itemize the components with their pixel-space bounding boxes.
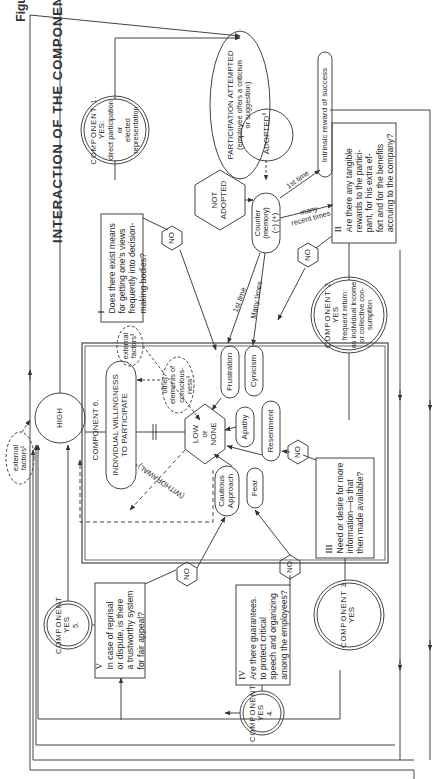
- other-elements-line: ness³: [186, 366, 194, 404]
- high-node: HIGH: [56, 408, 65, 428]
- return-loop-outer: [30, 15, 414, 779]
- question-3-line: Need or desire for more: [335, 463, 345, 554]
- question-3-box: III Need or desire for more information—…: [324, 463, 366, 554]
- question-1-num: I: [96, 223, 107, 314]
- external-factors-line: factors³: [130, 333, 138, 359]
- return-loop-4: [38, 445, 340, 719]
- not-adopted-line: ADOPTED: [220, 181, 229, 220]
- component-2: COMPONENT 2 YES frequent return: as indi…: [324, 282, 374, 349]
- question-3-line: information—is that: [345, 463, 355, 554]
- component-1: COMPONENT 1. YES: direct participation o…: [90, 96, 140, 165]
- counter-node: Counter (memory) (−) (+): [254, 207, 279, 239]
- component-3: COMPONENT 3 YES: [340, 582, 357, 648]
- component-1-line: representation: [132, 96, 140, 165]
- question-2-line: rewards to the partici-: [354, 134, 364, 232]
- no-label-q4: NO: [286, 561, 295, 573]
- individual-willingness-node: INDIVIDUAL WILLINGNESS TO PARTICIPATE: [112, 374, 130, 476]
- no-label-q5: NO: [183, 568, 192, 580]
- question-4-line: among the employees?: [279, 590, 289, 679]
- question-2-num: II: [333, 134, 344, 232]
- question-4-line: to protect critical: [258, 590, 268, 679]
- figure-title: INTERACTION OF THE COMPONENTS: [51, 0, 66, 243]
- question-5-line: a trustworthy system: [125, 591, 135, 670]
- question-2-line: accruing to the company?: [385, 134, 395, 232]
- outcome-cynicism: Cynicism: [250, 355, 259, 387]
- question-4-line: Are there guarantees.: [248, 590, 258, 679]
- question-1-line: frequently into decision-: [127, 223, 137, 314]
- question-1-line: Does there exist means: [107, 223, 117, 314]
- question-5-box: V In case of reprisal or dispute, is the…: [94, 591, 146, 670]
- component-2-line: sumption: [366, 282, 374, 349]
- not-adopted-node: NOT ADOPTED: [211, 181, 229, 220]
- question-4-num: IV: [237, 590, 248, 679]
- question-2-box: II Are there any tangible rewards to the…: [333, 134, 395, 232]
- adopted-node: ADOPTED: [263, 116, 272, 155]
- question-4-box: IV Are there guarantees. to protect crit…: [237, 590, 289, 679]
- external-factors-top: external factors³: [122, 333, 139, 359]
- question-5-num: V: [94, 591, 105, 670]
- diagram-lines: [0, 0, 436, 779]
- intrinsic-reward-node: Intrinsic reward of success: [321, 68, 330, 162]
- outcome-cautious-approach: Cautious Approach: [218, 474, 236, 508]
- component-6-label: COMPONENT 6.: [92, 400, 101, 461]
- willingness-line: TO PARTICIPATE: [121, 374, 130, 476]
- question-1-line: for getting one's views: [117, 223, 127, 314]
- question-5-line: or dispute, is there: [115, 591, 125, 670]
- outcome-apathy: Apathy: [241, 415, 250, 440]
- question-2-line: pant, for his extra ef-: [364, 134, 374, 232]
- cautious-line: Approach: [227, 474, 236, 508]
- other-elements-of-consciousness: other elements of conscious- ness³: [161, 366, 194, 404]
- participation-desc: or suggestion): [244, 50, 252, 159]
- counter-sign: (−) (+): [270, 207, 278, 239]
- question-5-line: for fair appeal?: [136, 591, 146, 670]
- question-5-line: In case of reprisal: [105, 591, 115, 670]
- question-3-line: then made available?: [356, 463, 366, 554]
- component-3-yes: YES: [349, 582, 358, 648]
- no-label-q3: NO: [294, 446, 303, 458]
- participation-attempted-node: PARTICIPATION ATTEMPTED (employee offers…: [227, 50, 253, 159]
- outcome-frustration: Frustration: [226, 353, 235, 391]
- none-label: NONE: [209, 422, 218, 445]
- outcome-resentment: Resentment: [267, 409, 276, 452]
- external-factors-line: factors¹: [20, 445, 28, 471]
- component-5: COMPONENT YES 5.: [55, 596, 81, 654]
- component-4-num: 4.: [267, 684, 275, 742]
- figure-label: Figure 10.1: [15, 0, 28, 22]
- question-2-line: fort and for the benefits: [375, 134, 385, 232]
- component-4: COMPONENT YES 4.: [249, 684, 275, 742]
- external-factors-left: external factors¹: [12, 445, 29, 471]
- question-2-line: Are there any tangible: [344, 134, 354, 232]
- no-label-q1: NO: [168, 232, 177, 244]
- outcome-fear: Fear: [251, 480, 260, 496]
- question-4-line: speech and organizing: [268, 590, 278, 679]
- question-1-line: making bodies?: [138, 223, 148, 314]
- question-1-box: I Does there exist means for getting one…: [96, 223, 148, 314]
- low-or-none-node: LOW or NONE: [192, 422, 219, 445]
- question-3-num: III: [324, 463, 335, 554]
- component-5-num: 5.: [73, 596, 81, 654]
- no-label-q2: NO: [304, 249, 313, 261]
